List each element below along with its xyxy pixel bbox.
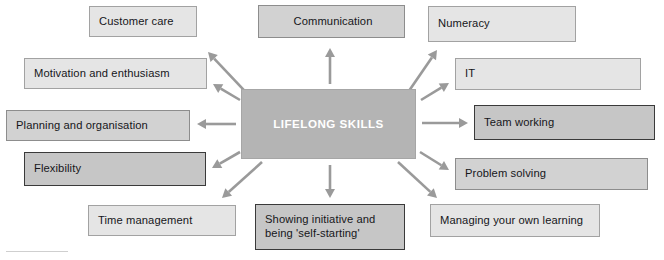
node-communication[interactable]: Communication bbox=[258, 5, 405, 38]
node-flexibility[interactable]: Flexibility bbox=[24, 152, 206, 186]
arrow-to-it bbox=[421, 83, 449, 100]
arrow-to-managing-learning bbox=[398, 162, 437, 198]
arrow-to-planning bbox=[197, 119, 236, 129]
node-showing-initiative[interactable]: Showing initiative and being 'self-start… bbox=[255, 204, 405, 250]
node-customer-care[interactable]: Customer care bbox=[89, 6, 197, 37]
arrow-to-showing-initiative bbox=[325, 165, 335, 198]
arrow-to-flexibility bbox=[212, 152, 240, 168]
arrow-to-motivation bbox=[213, 84, 240, 100]
node-numeracy[interactable]: Numeracy bbox=[428, 6, 576, 42]
center-node-lifelong-skills[interactable]: LIFELONG SKILLS bbox=[241, 89, 416, 159]
arrow-to-problem-solving bbox=[420, 152, 449, 170]
node-planning[interactable]: Planning and organisation bbox=[6, 110, 190, 141]
diagram-canvas: LIFELONG SKILLSCustomer careCommunicatio… bbox=[0, 0, 664, 260]
node-problem-solving[interactable]: Problem solving bbox=[455, 158, 648, 190]
footer-rule bbox=[6, 251, 68, 252]
node-it[interactable]: IT bbox=[455, 58, 641, 90]
arrow-to-team-working bbox=[422, 118, 468, 128]
arrow-to-time-management bbox=[222, 162, 262, 198]
node-managing-learning[interactable]: Managing your own learning bbox=[430, 204, 600, 237]
node-time-management[interactable]: Time management bbox=[88, 205, 236, 236]
node-motivation[interactable]: Motivation and enthusiasm bbox=[24, 58, 207, 89]
node-team-working[interactable]: Team working bbox=[474, 105, 655, 140]
arrow-to-communication bbox=[325, 48, 335, 84]
